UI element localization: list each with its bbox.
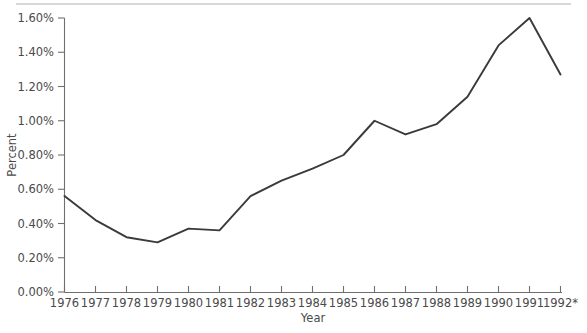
x-axis-ticks [65, 286, 561, 293]
x-tick-label: 1991 [515, 296, 544, 310]
x-axis-title: Year [300, 311, 326, 325]
y-axis-ticks [58, 18, 65, 292]
chart-container: 0.00%0.20%0.40%0.60%0.80%1.00%1.20%1.40%… [0, 0, 587, 333]
y-tick-label: 0.40% [17, 217, 54, 231]
y-tick-label: 0.80% [17, 148, 54, 162]
x-tick-label: 1987 [391, 296, 420, 310]
y-tick-label: 0.20% [17, 251, 54, 265]
x-tick-label: 1982 [236, 296, 265, 310]
x-tick-label: 1989 [453, 296, 482, 310]
y-tick-label: 1.20% [17, 80, 54, 94]
y-tick-label: 1.40% [17, 45, 54, 59]
x-tick-label: 1977 [81, 296, 110, 310]
x-tick-label: 1980 [174, 296, 203, 310]
x-tick-label: 1990 [484, 296, 513, 310]
y-axis-title: Percent [5, 133, 19, 177]
x-tick-label: 1986 [360, 296, 389, 310]
x-tick-label: 1981 [205, 296, 234, 310]
y-tick-label: 1.60% [17, 11, 54, 25]
y-axis-tick-labels: 0.00%0.20%0.40%0.60%0.80%1.00%1.20%1.40%… [17, 11, 54, 299]
x-tick-label: 1979 [143, 296, 172, 310]
x-tick-label: 1984 [298, 296, 327, 310]
data-line-percent [65, 18, 561, 242]
x-tick-label: 1985 [329, 296, 358, 310]
x-tick-label: 1978 [112, 296, 141, 310]
y-tick-label: 0.60% [17, 182, 54, 196]
y-axis: 0.00%0.20%0.40%0.60%0.80%1.00%1.20%1.40%… [5, 11, 65, 299]
x-tick-label: 1992* [543, 296, 578, 310]
x-tick-label: 1976 [50, 296, 79, 310]
x-tick-label: 1988 [422, 296, 451, 310]
y-tick-label: 1.00% [17, 114, 54, 128]
data-series-group [65, 18, 561, 242]
y-tick-label: 0.00% [17, 285, 54, 299]
x-axis-tick-labels: 1976197719781979198019811982198319841985… [50, 296, 578, 310]
line-chart-plot: 0.00%0.20%0.40%0.60%0.80%1.00%1.20%1.40%… [0, 0, 587, 333]
x-axis: 1976197719781979198019811982198319841985… [50, 286, 578, 325]
x-tick-label: 1983 [267, 296, 296, 310]
